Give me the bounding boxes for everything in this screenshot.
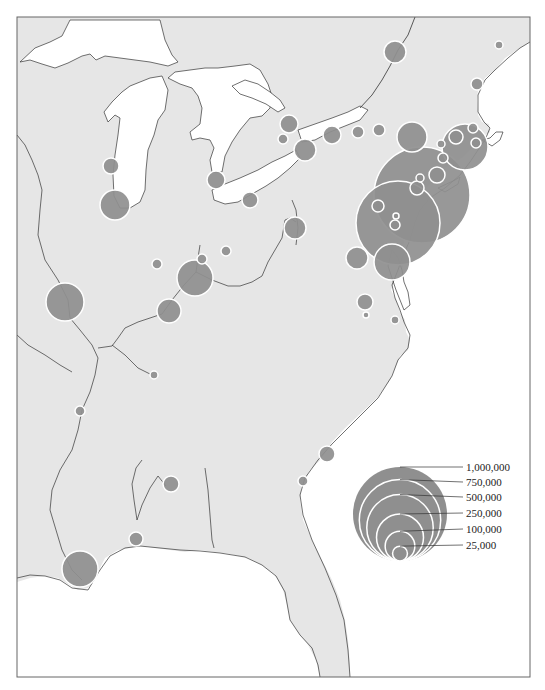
city-circle <box>284 217 306 239</box>
city-circle <box>410 181 424 195</box>
legend-label-100000: 100,000 <box>466 523 502 535</box>
city-circle <box>157 299 181 323</box>
city-circle <box>129 532 143 546</box>
city-circle <box>319 446 335 462</box>
city-circle <box>374 244 410 280</box>
city-circle <box>397 122 427 152</box>
city-circle <box>177 260 213 296</box>
city-circle <box>449 130 463 144</box>
city-circle <box>471 78 483 90</box>
city-circle <box>363 312 369 318</box>
city-circle <box>280 115 298 133</box>
city-circle <box>100 190 130 220</box>
city-circle <box>416 174 424 182</box>
city-circle <box>46 283 84 321</box>
city-circle <box>346 247 368 269</box>
legend-label-25000: 25,000 <box>466 539 496 551</box>
city-circle <box>357 294 373 310</box>
city-circle <box>390 220 400 230</box>
city-circle <box>207 171 225 189</box>
city-circle <box>103 158 119 174</box>
city-circle <box>278 134 288 144</box>
city-circle <box>163 476 179 492</box>
city-circle <box>221 246 231 256</box>
city-circle <box>393 213 399 219</box>
city-circle <box>75 406 85 416</box>
legend-label-250000: 250,000 <box>466 507 502 519</box>
city-circle <box>471 138 481 148</box>
legend-circle <box>393 546 408 561</box>
city-circle <box>429 167 445 183</box>
city-circle <box>242 192 258 208</box>
city-circle <box>495 41 503 49</box>
city-circle <box>437 140 445 148</box>
city-circle <box>384 41 406 63</box>
city-circle <box>372 200 384 212</box>
city-circle <box>62 551 98 587</box>
city-circle <box>294 139 316 161</box>
city-circle <box>352 126 364 138</box>
legend-label-750000: 750,000 <box>466 476 502 488</box>
city-circle <box>152 259 162 269</box>
city-circle <box>438 153 448 163</box>
city-circle <box>197 254 207 264</box>
city-circle <box>468 123 478 133</box>
city-circle <box>298 476 308 486</box>
city-circle <box>373 124 385 136</box>
city-circle <box>442 124 488 170</box>
city-circle <box>150 371 158 379</box>
population-circle-map <box>0 0 545 690</box>
legend-label-1000000: 1,000,000 <box>466 461 510 473</box>
city-circle <box>391 316 399 324</box>
legend-label-500000: 500,000 <box>466 491 502 503</box>
city-circle <box>323 126 341 144</box>
